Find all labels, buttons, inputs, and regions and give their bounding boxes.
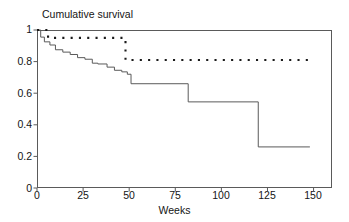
solid-curve bbox=[37, 30, 310, 147]
plot-curves-svg bbox=[0, 0, 349, 222]
survival-chart-figure: Cumulative survival 0 0.2 0.4 0.6 0.8 1 … bbox=[0, 0, 349, 222]
dotted-curve bbox=[37, 30, 314, 60]
survival-curves-group bbox=[37, 30, 314, 147]
